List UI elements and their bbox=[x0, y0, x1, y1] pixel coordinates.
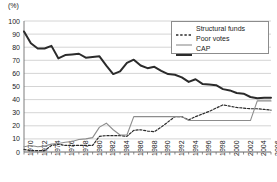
series-line-poor-votes bbox=[24, 101, 271, 147]
legend-swatch-thick-solid bbox=[176, 45, 192, 53]
legend-label-poor-votes: Poor votes bbox=[196, 35, 229, 43]
legend-item-cap: CAP bbox=[176, 44, 210, 54]
chart-figure: (%) 0102030405060708090100 1970197219741… bbox=[0, 0, 277, 182]
series-line-structural-funds bbox=[24, 105, 271, 151]
legend-item-structural-funds: Structural funds bbox=[176, 24, 245, 34]
legend-item-poor-votes: Poor votes bbox=[176, 34, 229, 44]
legend-label-structural-funds: Structural funds bbox=[196, 25, 245, 33]
legend-label-cap: CAP bbox=[196, 45, 210, 53]
legend-swatch-dashed bbox=[176, 25, 192, 33]
legend-swatch-thin-solid bbox=[176, 35, 192, 43]
chart-legend: Structural funds Poor votes CAP bbox=[171, 21, 269, 54]
